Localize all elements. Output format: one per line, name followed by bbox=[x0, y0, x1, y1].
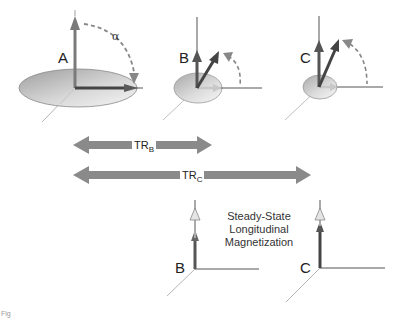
panel-label-c: C bbox=[300, 49, 311, 66]
steady-state-arrow-b bbox=[190, 208, 200, 269]
panel-label-b: B bbox=[179, 49, 189, 66]
panel-b bbox=[163, 17, 262, 120]
steady-state-caption: Steady-State Longitudinal Magnetization bbox=[204, 210, 314, 249]
tr-c-label: TRC bbox=[180, 169, 204, 186]
flip-angle-arc bbox=[228, 56, 240, 86]
panel-a bbox=[19, 10, 143, 122]
flip-angle-arc bbox=[84, 24, 134, 72]
flip-angle-arc bbox=[350, 44, 367, 84]
diagram-canvas bbox=[0, 0, 403, 319]
steady-state-arrow-c bbox=[315, 208, 325, 268]
flip-angle-symbol: α bbox=[112, 30, 119, 43]
panel-label-a: A bbox=[58, 49, 68, 66]
panel-c bbox=[285, 16, 383, 120]
steady-state-label-c: C bbox=[300, 259, 311, 276]
tr-b-label: TRB bbox=[132, 139, 156, 156]
arc-arrowhead-icon bbox=[223, 52, 233, 62]
cropped-caption-fragment: Fig bbox=[1, 310, 11, 317]
steady-state-label-b: B bbox=[175, 259, 185, 276]
